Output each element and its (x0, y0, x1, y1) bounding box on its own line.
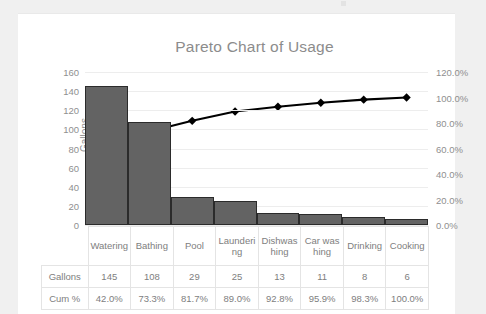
chart-panel[interactable]: Pareto Chart of Usage Gallons 0204060801… (18, 14, 455, 314)
table-header-cell: Bathing (131, 227, 174, 266)
table-cell: 73.3% (131, 288, 174, 310)
table-cell: 42.0% (88, 288, 131, 310)
table-cell: 13 (258, 266, 301, 288)
table-cell: 29 (173, 266, 216, 288)
cropped-artifact (341, 1, 346, 6)
bar-cooking[interactable] (385, 219, 428, 225)
secondary-y-axis-tick-label: 60.0% (436, 143, 486, 154)
gridline (85, 72, 428, 73)
table-header-cell: Cooking (386, 227, 429, 266)
table-row: Cum %42.0%73.3%81.7%89.0%92.8%95.9%98.3%… (42, 288, 429, 310)
line-marker-drinking[interactable] (359, 95, 367, 103)
secondary-y-axis-tick-label: 20.0% (436, 194, 486, 205)
table-cell: 25 (216, 266, 259, 288)
secondary-y-axis-tick-label: 40.0% (436, 169, 486, 180)
y-axis-tick-label: 160 (37, 67, 79, 78)
table-header-cell: Drinking (343, 227, 386, 266)
plot-area[interactable]: Gallons 0204060801001201401600.0%20.0%40… (85, 72, 428, 225)
table-cell: 145 (88, 266, 131, 288)
bar-watering[interactable] (85, 86, 128, 225)
table-cell: 8 (343, 266, 386, 288)
line-marker-pool[interactable] (188, 117, 196, 125)
table-cell: 92.8% (258, 288, 301, 310)
table-header-cell: Pool (173, 227, 216, 266)
bar-laundering[interactable] (214, 201, 257, 225)
table-header-cell: Watering (88, 227, 131, 266)
chart-title: Pareto Chart of Usage (36, 38, 473, 56)
table-header-cell: Laundering (216, 227, 259, 266)
table-cell: 89.0% (216, 288, 259, 310)
table-row: Gallons1451082925131186 (42, 266, 429, 288)
bar-pool[interactable] (171, 197, 214, 225)
bar-dishwashing[interactable] (257, 213, 300, 225)
line-marker-car-washing[interactable] (317, 99, 325, 107)
table-row-header: Cum % (42, 288, 89, 310)
table-cell: 98.3% (343, 288, 386, 310)
secondary-y-axis-tick-label: 80.0% (436, 118, 486, 129)
table-cell: 100.0% (386, 288, 429, 310)
y-axis-tick-label: 40 (37, 181, 79, 192)
gridline (85, 110, 428, 111)
table-cell: 81.7% (173, 288, 216, 310)
table-row-header: Gallons (42, 266, 89, 288)
secondary-y-axis-tick-label: 100.0% (436, 92, 486, 103)
gridline (85, 91, 428, 92)
line-marker-laundering[interactable] (231, 107, 239, 115)
table-row: WateringBathingPoolLaunderingDishwashing… (42, 227, 429, 266)
bar-drinking[interactable] (342, 217, 385, 225)
y-axis-tick-label: 80 (37, 143, 79, 154)
secondary-y-axis-tick-label: 120.0% (436, 67, 486, 78)
table-corner-cell (42, 227, 89, 266)
bar-car-washing[interactable] (299, 214, 342, 225)
table-cell: 6 (386, 266, 429, 288)
secondary-y-axis-tick-label: 0.0% (436, 220, 486, 231)
data-table: WateringBathingPoolLaunderingDishwashing… (41, 226, 429, 310)
table-header-cell: Car washing (301, 227, 344, 266)
bar-bathing[interactable] (128, 122, 171, 225)
table-cell: 95.9% (301, 288, 344, 310)
y-axis-tick-label: 140 (37, 86, 79, 97)
y-axis-tick-label: 20 (37, 200, 79, 211)
y-axis-tick-label: 120 (37, 105, 79, 116)
line-marker-cooking[interactable] (402, 93, 410, 101)
table-cell: 11 (301, 266, 344, 288)
table-cell: 108 (131, 266, 174, 288)
y-axis-tick-label: 60 (37, 162, 79, 173)
y-axis-tick-label: 100 (37, 124, 79, 135)
table-header-cell: Dishwashing (258, 227, 301, 266)
